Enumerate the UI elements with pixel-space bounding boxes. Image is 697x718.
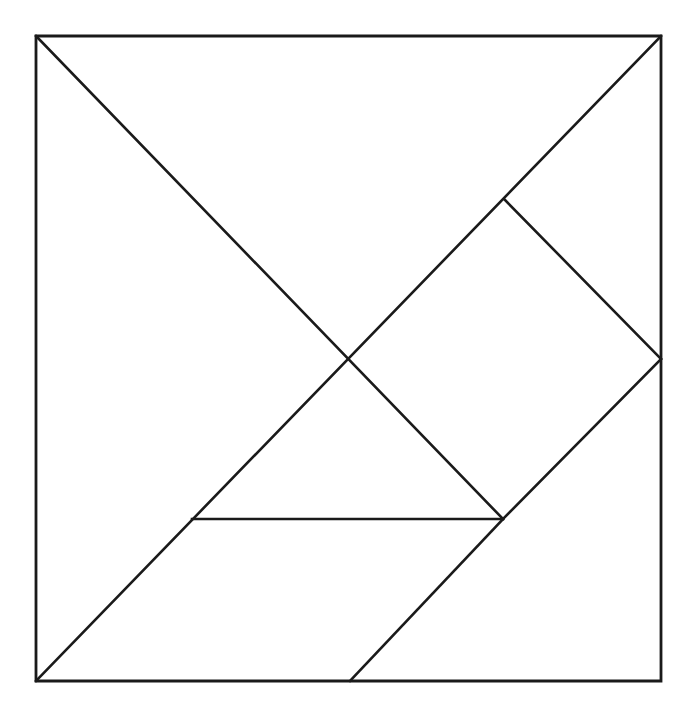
tangram-figure — [0, 0, 697, 718]
tangram-canvas — [0, 0, 697, 718]
